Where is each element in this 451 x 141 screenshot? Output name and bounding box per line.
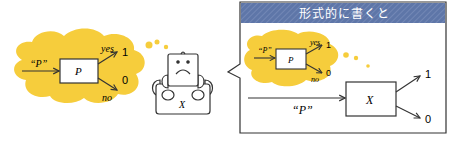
inner-yes-label: yes [309,38,320,47]
robot-label: X [178,99,186,110]
inner-input-label: “P” [258,46,272,55]
panel-title: 形式的に書くと [244,5,445,23]
inner-out-0: 0 [326,68,331,78]
inner-out-1: 1 [326,40,331,50]
left-out-0: 0 [122,74,128,86]
left-input-label: “P” [30,58,48,69]
inner-no-label: no [311,75,319,84]
machine-out-1: 1 [425,68,431,80]
left-yes-label: yes [100,43,114,54]
machine-box-label: X [365,93,374,107]
left-box-label: P [74,65,82,77]
left-out-1: 1 [122,46,128,58]
machine-input-label: “P” [292,103,313,117]
machine-out-0: 0 [425,113,431,125]
inner-box-label: P [287,55,294,65]
left-no-label: no [102,92,112,103]
